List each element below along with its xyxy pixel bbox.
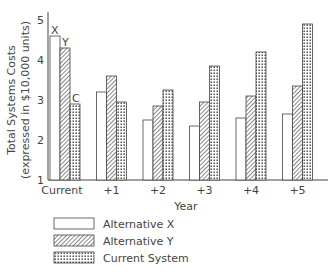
legend-swatch: [54, 218, 94, 229]
legend: Alternative XAlternative YCurrent System: [54, 218, 189, 265]
legend-label: Alternative Y: [103, 235, 174, 248]
y-tick-label: 5: [37, 14, 44, 27]
legend-swatch: [54, 235, 94, 246]
bar-annotation: X: [51, 24, 59, 37]
bar-alternative-y: [107, 76, 117, 180]
legend-label: Current System: [103, 252, 189, 265]
bar-alternative-x: [97, 92, 107, 180]
x-tick-label: +5: [289, 184, 305, 197]
bar-alternative-y: [153, 106, 163, 180]
bar-annotation: Y: [61, 36, 69, 49]
bar-alternative-x: [50, 36, 60, 180]
bar-current-system: [163, 90, 173, 180]
bar-current-system: [303, 24, 313, 180]
bar-annotation: C: [72, 92, 80, 105]
x-tick-label: +2: [150, 184, 166, 197]
bar-alternative-x: [236, 118, 246, 180]
bar-alternative-y: [60, 48, 70, 180]
y-tick-label: 2: [37, 134, 44, 147]
x-axis-title: Year: [173, 200, 198, 213]
bar-alternative-y: [246, 96, 256, 180]
bar-current-system: [117, 102, 127, 180]
bar-alternative-x: [283, 114, 293, 180]
bar-current-system: [70, 104, 80, 180]
x-tick-label: +1: [103, 184, 119, 197]
bar-alternative-y: [200, 102, 210, 180]
bar-current-system: [210, 66, 220, 180]
y-axis-title: Total Systems Costs: [5, 45, 18, 156]
x-tick-label: +3: [196, 184, 212, 197]
bar-alternative-x: [190, 126, 200, 180]
bar-current-system: [256, 52, 266, 180]
x-tick-label: Current: [41, 184, 83, 197]
y-tick-label: 4: [37, 54, 44, 67]
x-tick-label: +4: [243, 184, 259, 197]
y-tick-label: 3: [37, 94, 44, 107]
legend-swatch: [54, 252, 94, 263]
bar-chart: 12345Total Systems Costs(expressed in $1…: [0, 0, 330, 278]
bar-alternative-x: [143, 120, 153, 180]
legend-label: Alternative X: [103, 218, 175, 231]
y-axis-subtitle: (expressed in $10,000 units): [19, 21, 32, 179]
bars: XYC: [50, 24, 313, 180]
bar-alternative-y: [293, 86, 303, 180]
